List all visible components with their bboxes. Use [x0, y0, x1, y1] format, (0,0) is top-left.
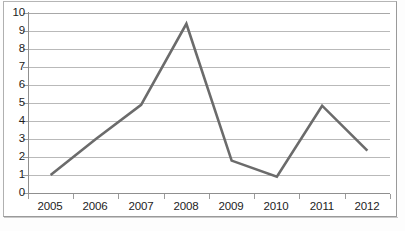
y-axis-label-0: 0	[3, 187, 25, 198]
y-axis-label-1: 1	[3, 169, 25, 180]
y-axis-label-8: 8	[3, 43, 25, 54]
x-tick-5	[254, 194, 255, 199]
x-tick-6	[299, 194, 300, 199]
y-axis-label-10: 10	[3, 7, 25, 18]
y-axis-label-5: 5	[3, 97, 25, 108]
y-axis-label-4: 4	[3, 115, 25, 126]
series-line	[28, 13, 390, 193]
x-axis-label-2006: 2006	[72, 200, 118, 212]
y-axis-label-3: 3	[3, 133, 25, 144]
y-axis-labels: 10 9 8 7 6 5 4 3 2 1 0	[0, 0, 25, 231]
x-axis-label-2005: 2005	[27, 200, 73, 212]
y-axis-label-9: 9	[3, 25, 25, 36]
x-axis-label-2008: 2008	[163, 200, 209, 212]
y-axis-label-2: 2	[3, 151, 25, 162]
x-axis-label-2011: 2011	[299, 200, 345, 212]
y-axis-label-6: 6	[3, 79, 25, 90]
x-tick-7	[345, 194, 346, 199]
x-tick-2	[118, 194, 119, 199]
x-tick-8	[390, 194, 391, 199]
plot-area	[28, 13, 390, 193]
x-axis-label-2010: 2010	[253, 200, 299, 212]
x-tick-3	[164, 194, 165, 199]
x-axis-label-2012: 2012	[344, 200, 390, 212]
y-axis-label-7: 7	[3, 61, 25, 72]
x-axis-label-2009: 2009	[208, 200, 254, 212]
x-tick-4	[209, 194, 210, 199]
x-tick-1	[73, 194, 74, 199]
chart-figure: 10 9 8 7 6 5 4 3 2 1 0 2005 2006 2007 20…	[0, 0, 405, 231]
y-axis-line	[28, 12, 29, 194]
x-axis-label-2007: 2007	[118, 200, 164, 212]
chart-border-shadow	[4, 217, 398, 218]
x-tick-0	[28, 194, 29, 199]
